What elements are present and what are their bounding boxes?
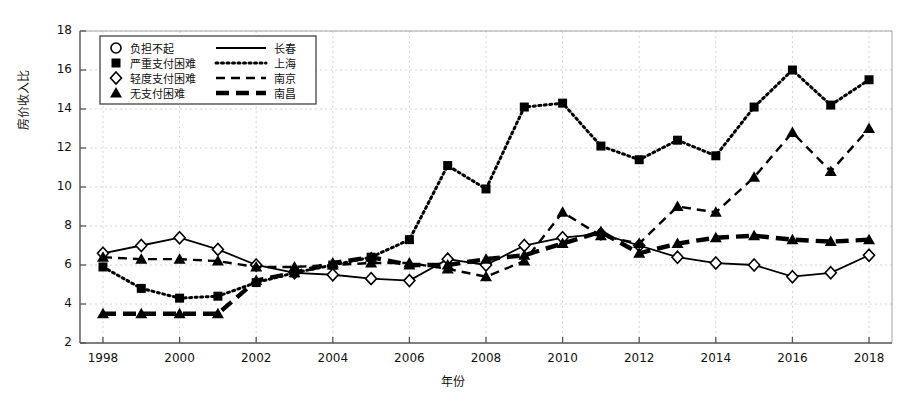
- series-2-point: [557, 206, 569, 217]
- x-tick-label: 2010: [535, 351, 591, 365]
- legend-condition-label-1: 严重支付困难: [130, 55, 196, 71]
- y-tick-label: 4: [36, 296, 72, 310]
- series-1-point: [482, 184, 491, 193]
- series-2-point: [710, 206, 722, 217]
- legend-city-label-3: 南昌: [274, 85, 296, 101]
- series-1-point: [865, 75, 874, 84]
- series-1-point: [750, 103, 759, 112]
- legend-condition-label-0: 负担不起: [130, 40, 174, 56]
- legend-city-label-2: 南京: [274, 70, 296, 86]
- legend-city-label-0: 长春: [274, 40, 296, 56]
- y-tick-label: 12: [36, 140, 72, 154]
- series-0-point: [787, 271, 798, 283]
- legend-marker-1: [112, 59, 121, 68]
- series-1-point: [520, 103, 529, 112]
- series-0-point: [710, 257, 721, 269]
- y-tick-label: 8: [36, 218, 72, 232]
- series-1-point: [558, 99, 567, 108]
- x-tick-label: 1998: [75, 351, 131, 365]
- series-0-point: [864, 249, 875, 261]
- series-1-point: [137, 284, 146, 293]
- legend-condition-label-2: 轻度支付困难: [130, 70, 196, 86]
- series-0-point: [174, 232, 185, 244]
- legend-marker-0: [111, 43, 121, 53]
- series-2-point: [863, 123, 875, 134]
- series-0-point: [327, 269, 338, 281]
- series-1-point: [405, 235, 414, 244]
- series-1-point: [213, 292, 222, 301]
- series-0-point: [825, 267, 836, 279]
- series-0-point: [212, 243, 223, 255]
- y-tick-label: 6: [36, 257, 72, 271]
- series-0-point: [749, 259, 760, 271]
- legend-condition-label-3: 无支付困难: [130, 85, 185, 101]
- x-tick-label: 2016: [764, 351, 820, 365]
- y-axis-label: 房价收入比: [14, 50, 31, 150]
- x-tick-label: 2012: [611, 351, 667, 365]
- x-tick-label: 2008: [458, 351, 514, 365]
- legend-city-label-1: 上海: [274, 55, 296, 71]
- series-2-point: [672, 201, 684, 212]
- series-1-point: [443, 161, 452, 170]
- x-tick-label: 2002: [228, 351, 284, 365]
- series-0-point: [136, 240, 147, 252]
- series-2-point: [786, 126, 798, 136]
- x-tick-label: 2000: [152, 351, 208, 365]
- x-axis-label: 年份: [0, 372, 905, 389]
- chart-figure: 房价收入比 年份 2468101214161819982000200220042…: [0, 0, 905, 402]
- series-1-point: [98, 262, 107, 271]
- series-1-point: [826, 101, 835, 110]
- x-tick-label: 2004: [305, 351, 361, 365]
- x-tick-label: 2006: [381, 351, 437, 365]
- y-tick-label: 18: [36, 23, 72, 37]
- series-0-point: [672, 251, 683, 263]
- x-tick-label: 2018: [841, 351, 897, 365]
- series-1-point: [175, 294, 184, 303]
- y-tick-label: 10: [36, 179, 72, 193]
- y-tick-label: 16: [36, 62, 72, 76]
- y-tick-label: 14: [36, 101, 72, 115]
- x-tick-label: 2014: [688, 351, 744, 365]
- series-2-point: [825, 165, 837, 176]
- series-0-point: [366, 273, 377, 285]
- series-1-point: [711, 151, 720, 160]
- series-1-point: [596, 142, 605, 151]
- y-tick-label: 2: [36, 335, 72, 349]
- series-1-point: [788, 66, 797, 75]
- series-3-point: [595, 226, 607, 237]
- series-1-point: [673, 136, 682, 145]
- series-0-point: [404, 275, 415, 287]
- series-1-point: [635, 155, 644, 164]
